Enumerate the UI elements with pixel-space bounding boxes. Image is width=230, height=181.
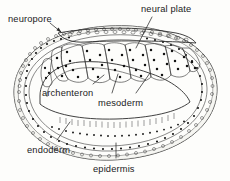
label-mesoderm: mesoderm — [98, 98, 143, 108]
mesoderm-leader-left — [112, 74, 118, 93]
mesoderm-leader-right — [136, 73, 150, 93]
label-neural-plate: neural plate — [141, 4, 191, 14]
left-cell-cluster — [41, 59, 52, 87]
neural-plate-leader — [136, 17, 152, 48]
mesoderm-nuclei — [56, 49, 197, 79]
label-epidermis: epidermis — [93, 164, 135, 174]
neuropore-arrowhead — [56, 28, 61, 33]
label-endoderm: endoderm — [27, 145, 70, 155]
label-archenteron: archenteron — [42, 88, 93, 98]
diagram-canvas: neuropore neural plate archenteron mesod… — [0, 0, 230, 181]
label-neuropore: neuropore — [8, 14, 52, 24]
inner-epithelium-upper2 — [29, 40, 202, 92]
